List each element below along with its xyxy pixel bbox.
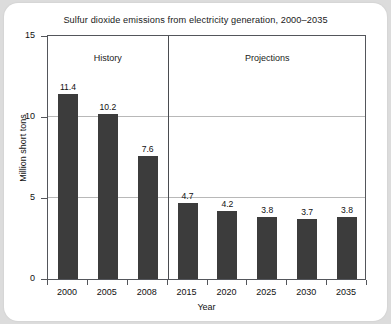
x-tick-label-2000: 2000 [45,287,89,297]
x-tick-mark-0 [47,280,48,285]
y-tick-label-0: 0 [9,273,35,283]
bar-2005 [98,114,118,279]
chart-title: Sulfur dioxide emissions from electricit… [4,15,387,25]
x-tick-mark-5 [246,280,247,285]
x-tick-mark-2 [127,280,128,285]
bar-value-2025: 3.8 [247,205,287,215]
bar-value-2008: 7.6 [128,144,168,154]
x-tick-label-2025: 2025 [244,287,288,297]
y-tick-label-10: 10 [9,111,35,121]
x-tick-label-2015: 2015 [165,287,209,297]
bar-2030 [297,219,317,279]
chart-card: Sulfur dioxide emissions from electricit… [4,3,387,321]
bar-2000 [58,94,78,279]
section-label-history: History [48,53,168,63]
bar-value-2015: 4.7 [168,191,208,201]
gridline-10 [48,116,365,117]
x-tick-mark-4 [207,280,208,285]
x-tick-label-2035: 2035 [324,287,368,297]
plot-area: History Projections 11.410.27.64.74.23.8… [47,35,366,280]
bar-value-2035: 3.8 [327,205,367,215]
y-tick-label-15: 15 [9,30,35,40]
bar-2020 [217,211,237,279]
bar-value-2005: 10.2 [88,102,128,112]
bar-2025 [257,217,277,279]
bar-chart: Sulfur dioxide emissions from electricit… [4,3,387,321]
x-tick-mark-8 [366,280,367,285]
x-tick-mark-6 [286,280,287,285]
y-tick-mark-15 [41,36,47,37]
section-label-projections: Projections [168,53,367,63]
x-tick-label-2030: 2030 [284,287,328,297]
bar-value-2030: 3.7 [287,207,327,217]
x-tick-mark-7 [326,280,327,285]
history-projection-divider [168,36,169,279]
x-tick-label-2020: 2020 [204,287,248,297]
bar-value-2020: 4.2 [207,199,247,209]
bar-value-2000: 11.4 [48,82,88,92]
y-tick-mark-10 [41,117,47,118]
x-tick-label-2008: 2008 [125,287,169,297]
y-tick-mark-5 [41,198,47,199]
bar-2008 [138,156,158,279]
x-tick-mark-1 [87,280,88,285]
x-tick-mark-3 [167,280,168,285]
x-tick-label-2005: 2005 [85,287,129,297]
x-axis-title: Year [47,302,366,312]
y-tick-label-5: 5 [9,192,35,202]
bar-2015 [178,203,198,279]
bar-2035 [337,217,357,279]
